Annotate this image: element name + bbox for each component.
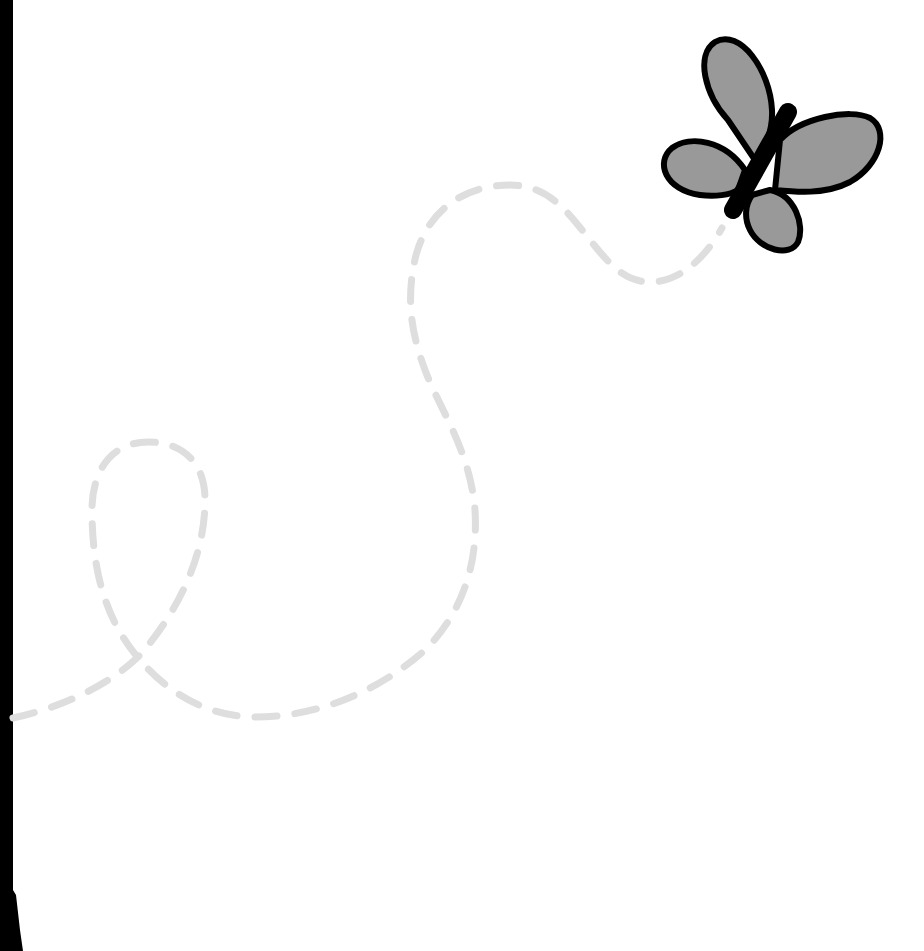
illustration — [0, 0, 924, 951]
butterfly-wing-right — [775, 114, 880, 192]
corner-shape — [0, 890, 23, 951]
butterfly-icon — [664, 39, 880, 250]
dashed-flight-path — [13, 185, 722, 718]
butterfly-wing-lower — [746, 190, 800, 251]
butterfly-wing-left — [664, 141, 745, 196]
